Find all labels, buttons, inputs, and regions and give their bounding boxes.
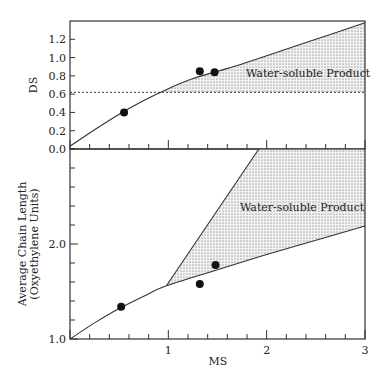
top-y-tick-label: 0.8 <box>49 70 67 83</box>
top-y-tick-label: 0.2 <box>49 125 67 138</box>
data-point <box>211 68 219 76</box>
top-panel: 0.00.20.40.60.81.01.2 Water-soluble Prod… <box>27 21 371 156</box>
top-x-ticks <box>70 140 365 149</box>
data-point <box>120 108 128 116</box>
x-tick-label: 1 <box>165 344 172 357</box>
top-y-tick-label: 0.6 <box>49 88 67 101</box>
top-y-tick-label: 0.4 <box>49 106 67 119</box>
top-y-ticks: 0.00.20.40.60.81.01.2 <box>49 33 76 156</box>
data-point <box>117 303 125 311</box>
bottom-y-axis-title-line2: (Oxyethylene Units) <box>28 188 41 299</box>
bottom-x-ticks: 123 <box>70 330 369 357</box>
bottom-region-label: Water-soluble Product <box>240 201 365 214</box>
x-axis-title: MS <box>209 355 228 368</box>
bottom-y-tick-label: 2.0 <box>49 238 67 251</box>
x-tick-label: 3 <box>362 344 369 357</box>
bottom-panel: 123 1.02.0 Water-soluble Product Average… <box>16 149 369 368</box>
top-region-label: Water-soluble Product <box>246 67 371 80</box>
top-y-tick-label: 1.0 <box>49 52 67 65</box>
chart-figure: 0.00.20.40.60.81.01.2 Water-soluble Prod… <box>0 0 392 384</box>
top-y-tick-label: 0.0 <box>49 143 67 156</box>
top-y-axis-title: DS <box>27 77 40 93</box>
x-tick-label: 2 <box>263 344 270 357</box>
top-y-tick-label: 1.2 <box>49 33 67 46</box>
data-point <box>196 280 204 288</box>
bottom-shaded-region <box>166 149 365 286</box>
data-point <box>196 67 204 75</box>
bottom-y-ticks: 1.02.0 <box>49 149 79 346</box>
data-point <box>212 261 220 269</box>
bottom-y-tick-label: 1.0 <box>49 333 67 346</box>
